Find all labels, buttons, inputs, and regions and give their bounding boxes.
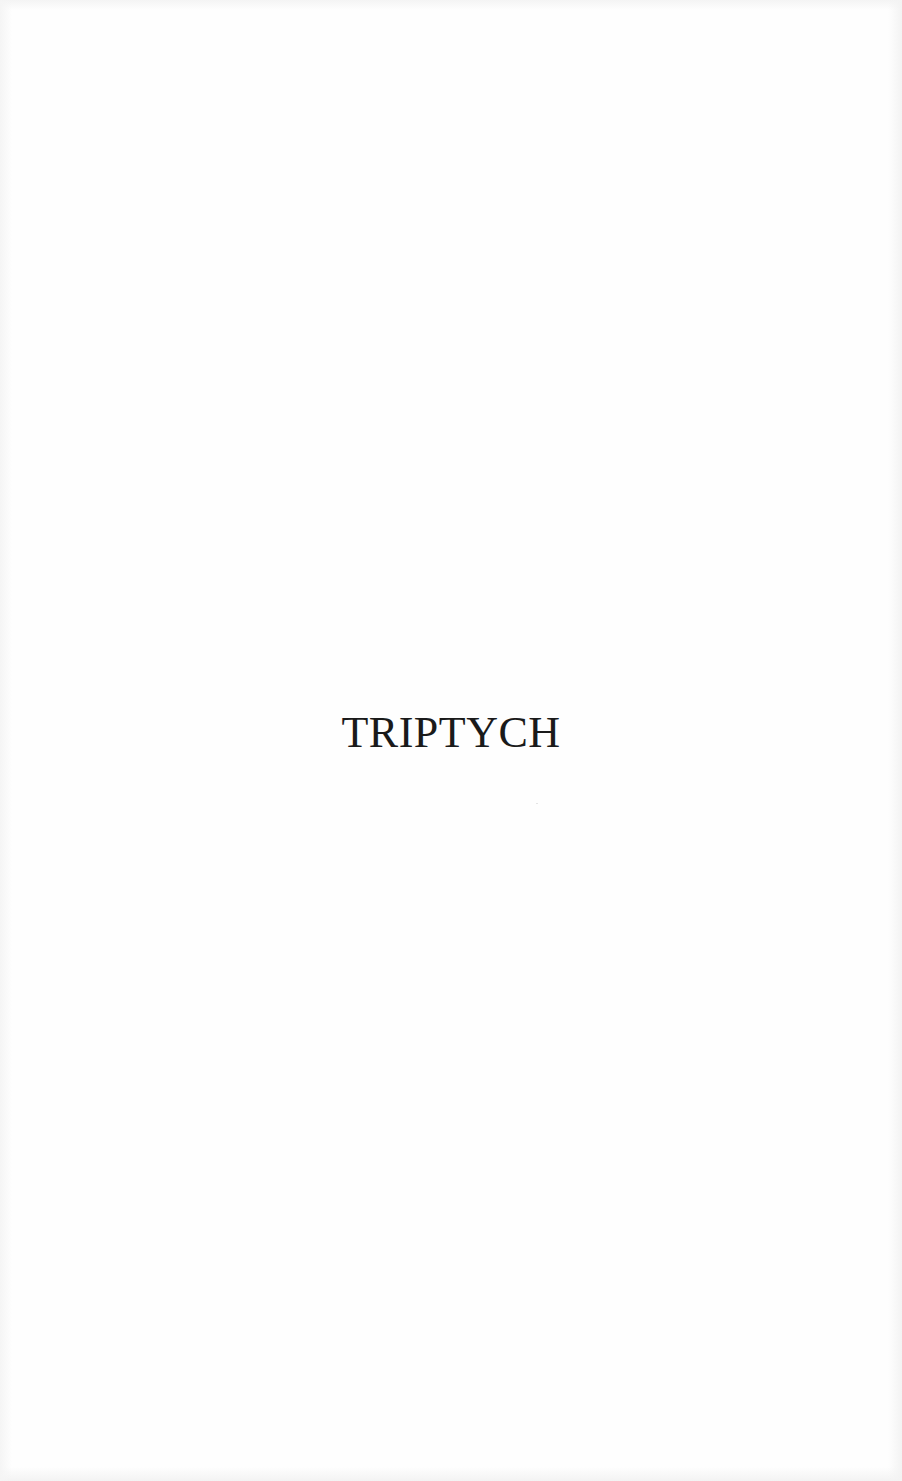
book-page: TRIPTYCH — [0, 0, 902, 1481]
scan-edge-bottom — [0, 1467, 902, 1481]
scan-edge-top — [0, 0, 902, 10]
page-title: TRIPTYCH — [0, 707, 902, 759]
scan-speck — [536, 803, 538, 804]
